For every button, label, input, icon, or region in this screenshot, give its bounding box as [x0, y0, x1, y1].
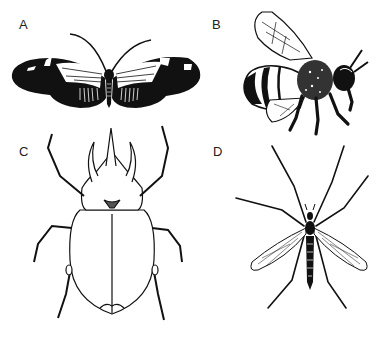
crane-fly-icon [236, 146, 368, 308]
butterfly-icon [12, 34, 200, 108]
bee-icon [244, 12, 368, 134]
beetle-icon [34, 126, 182, 320]
